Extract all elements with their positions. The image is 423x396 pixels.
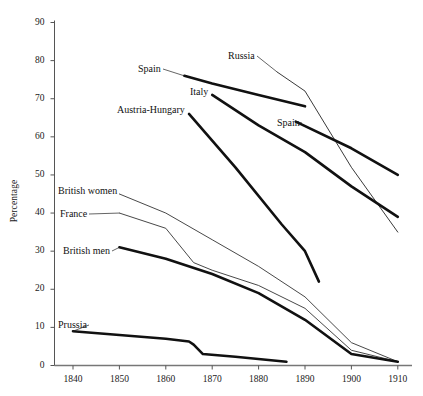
y-tick-label: 30: [23, 246, 45, 256]
series-label: Spain: [277, 118, 300, 128]
x-tick-label: 1840: [57, 375, 89, 385]
x-tick-label: 1890: [289, 375, 321, 385]
series-line: [189, 114, 319, 282]
y-tick-label: 50: [23, 170, 45, 180]
label-leader-line: [163, 69, 184, 76]
series-label: British women: [58, 186, 117, 196]
x-tick-label: 1900: [335, 375, 367, 385]
series-label: Russia: [228, 51, 255, 61]
y-tick-label: 40: [23, 208, 45, 218]
y-tick-label: 80: [23, 56, 45, 66]
x-tick-label: 1910: [382, 375, 414, 385]
series-label: France: [60, 209, 87, 219]
series-line: [119, 194, 397, 362]
y-tick-label: 70: [23, 94, 45, 104]
chart-container: Percentage 0102030405060708090 184018501…: [0, 0, 423, 396]
y-tick-label: 10: [23, 322, 45, 332]
y-tick-label: 60: [23, 132, 45, 142]
series-label: Prussia: [58, 320, 87, 330]
series-label: Spain: [138, 64, 161, 74]
x-tick-label: 1860: [150, 375, 182, 385]
plot-area: [0, 0, 423, 396]
series-label: Austria-Hungary: [117, 105, 185, 115]
y-axis-title: Percentage: [9, 166, 19, 236]
y-tick-label: 0: [23, 361, 45, 371]
x-tick-label: 1880: [243, 375, 275, 385]
label-leader-line: [89, 213, 119, 214]
x-tick-label: 1870: [196, 375, 228, 385]
label-leader-line: [257, 56, 277, 72]
label-leader-line: [112, 247, 119, 251]
series-line: [296, 122, 398, 175]
series-line: [212, 95, 398, 217]
series-line: [73, 331, 286, 361]
series-label: Italy: [190, 87, 208, 97]
series-label: British men: [63, 246, 110, 256]
y-tick-label: 90: [23, 18, 45, 28]
series-line: [277, 72, 398, 232]
series-lines: [73, 56, 398, 362]
y-tick-label: 20: [23, 284, 45, 294]
x-tick-label: 1850: [103, 375, 135, 385]
